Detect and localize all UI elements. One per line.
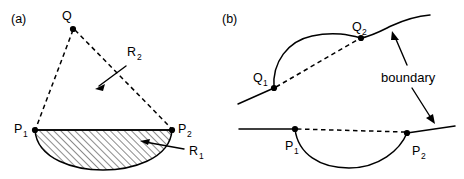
region-r2-label: R 2 (127, 45, 142, 62)
point-b-p2-label-base: P (412, 144, 420, 158)
panel-b-graphic (238, 15, 455, 168)
point-p1-dot (32, 127, 38, 133)
boundary-lower-arrow-head (426, 114, 435, 124)
point-q2-label-sub: 2 (362, 27, 367, 37)
panel-a-graphic (32, 26, 184, 170)
point-b-p2-label: P 2 (412, 144, 426, 161)
point-b-p1-label-base: P (285, 139, 293, 153)
panel-b-label: (b) (222, 12, 237, 26)
upper-boundary-right-segment (361, 15, 430, 38)
boundary-lower-arrow-line (412, 88, 431, 118)
region-r1-label-base: R (189, 144, 198, 158)
point-p1-label-base: P (14, 122, 22, 136)
point-q1-label-sub: 1 (263, 78, 268, 88)
lower-boundary-dip-arc (295, 129, 407, 168)
region-r1-hatched (35, 130, 172, 170)
lower-boundary-right-segment (407, 126, 455, 133)
point-p2-label-base: P (178, 122, 186, 136)
point-q1-label-base: Q (253, 71, 263, 85)
boundary-upper-arrow-head (391, 31, 399, 40)
point-q1-dot (271, 85, 277, 91)
panel-a-label: (a) (11, 12, 26, 26)
upper-boundary-left-segment (238, 88, 274, 104)
boundary-upper-arrow-line (395, 37, 407, 65)
point-p1-label-sub: 1 (23, 129, 28, 139)
point-q2-label-base: Q (352, 20, 362, 34)
point-b-p1-dot (292, 126, 298, 132)
point-p1-label: P 1 (14, 122, 28, 139)
upper-boundary-bulge-arc (274, 34, 361, 88)
figure-container: (a) Q P 1 P 2 R 2 R 1 (0, 0, 464, 179)
point-b-p1-label: P 1 (285, 139, 299, 156)
point-q-dot (70, 26, 76, 32)
region-r1-label: R 1 (189, 144, 204, 161)
dashed-edge-q-p2 (75, 30, 171, 128)
dashed-edge-q-p1 (36, 30, 73, 128)
region-r2-label-base: R (127, 45, 136, 59)
dashed-chord-p1-p2 (297, 129, 405, 132)
point-q-label: Q (62, 9, 72, 23)
region-r1-label-sub: 1 (199, 151, 204, 161)
point-p2-dot (169, 127, 175, 133)
figure-svg: (a) Q P 1 P 2 R 2 R 1 (0, 0, 464, 179)
point-b-p2-label-sub: 2 (421, 151, 426, 161)
point-b-p1-label-sub: 1 (294, 146, 299, 156)
dashed-chord-q1-q2 (276, 39, 359, 87)
region-r2-label-sub: 2 (137, 52, 142, 62)
point-b-p2-dot (404, 130, 410, 136)
boundary-label: boundary (381, 70, 436, 85)
point-p2-label: P 2 (178, 122, 192, 139)
point-q2-label: Q 2 (352, 20, 367, 37)
point-p2-label-sub: 2 (187, 129, 192, 139)
point-q1-label: Q 1 (253, 71, 268, 88)
r2-arrow-line (99, 66, 126, 86)
